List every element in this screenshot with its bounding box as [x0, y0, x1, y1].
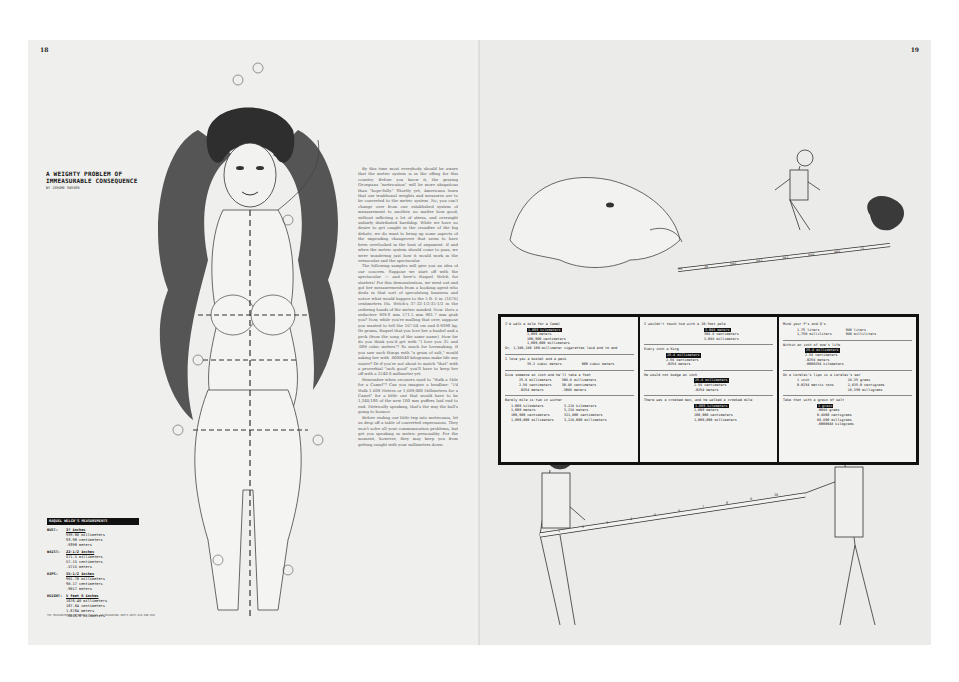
title-line-1: A WEIGHTY PROBLEM OF [46, 170, 138, 177]
table-column-3: Mind your P's and Q's 1.75 liters 1,750 … [779, 317, 916, 462]
conversion-values: 35.2 cubic meters 009 cubic meters [505, 362, 634, 367]
article-title: A WEIGHTY PROBLEM OF IMMEASURABLE CONSEQ… [46, 170, 138, 184]
woman-illustration [138, 60, 358, 630]
conversion-values: 1 grain .0648 grams 6.4800 centigrams 64… [783, 404, 912, 427]
expression: He would not budge an inch [644, 373, 773, 378]
value: 0.0254 metric tons [797, 383, 834, 388]
tape-label: 506 [730, 262, 736, 266]
value: 1,750 milliliters [797, 332, 832, 337]
expression: I love you a bushel and a peck [505, 357, 634, 362]
value-group: 1.75 liters 1,750 milliliters [797, 328, 832, 337]
table-cell: Barely mile is two in winter 1.609 kilom… [505, 396, 634, 425]
measurement-row-waist: WAIST: 22-1/2 inches 571.5 millimeters 5… [47, 550, 139, 570]
value: 160,900 centimeters [511, 413, 554, 418]
tape-label: 302 [782, 256, 788, 260]
conversion-table: I'd walk a mile for a Camel 1.609 kilome… [498, 314, 919, 465]
value: 1,609,000 millimeters [694, 418, 773, 423]
value: .0254 meters [519, 388, 552, 393]
tape-label: 5 [654, 513, 656, 517]
value: 3,048 millimeters [704, 337, 773, 342]
measurement-value: .9017 meters [66, 587, 105, 592]
measurements-heading: RAQUEL WELCH'S MEASUREMENTS [47, 518, 139, 525]
conversion-values: 25.4 millimeters 2.54 centimeters .0254 … [644, 378, 773, 392]
conversion-values: 25.4 millimeters 2.54 centimeters .0254 … [783, 348, 912, 366]
measurement-label: WAIST: [47, 550, 66, 570]
table-column-2: I wouldn't touch him with a 10-foot pole… [640, 317, 779, 462]
expression: There was a crooked man, and he walked a… [644, 398, 773, 403]
page-number-left: 18 [40, 46, 48, 53]
expression: On a Lorelei's lips is a Lorelei's ear [783, 373, 912, 378]
value: .0254 meters [666, 362, 773, 367]
value-group: 28.35 grams 2,835.0 centigrams 28,350 mi… [848, 378, 885, 392]
tape-label: 73 [860, 247, 864, 251]
conversion-values: 3.048 meters 304.8 centimeters 3,048 mil… [644, 328, 773, 342]
value: 2,835.0 centigrams [848, 383, 885, 388]
value: .0254 meters [694, 388, 773, 393]
measurement-value: .5715 meters [66, 565, 103, 570]
value-group: 25.4 millimeters 2.54 centimeters .0254 … [519, 378, 552, 392]
camel-and-walker-illustration [500, 120, 920, 290]
value-group: 3.218 kilometers 3,218 meters 321,800 ce… [564, 404, 607, 422]
value: 946 milliliters [846, 332, 877, 337]
title-line-2: IMMEASURABLE CONSEQUENCE [46, 177, 138, 184]
conversion-values: 1.609 kilometers 1,609 meters 160,900 ce… [505, 404, 634, 422]
body-paragraph: Remember when crooners used to "Walk a M… [358, 377, 458, 415]
article-body: By this time most everybody should be aw… [358, 166, 458, 606]
page-number-right: 19 [911, 46, 919, 53]
value: 321,800 centimeters [564, 413, 607, 418]
expression: Within an inch of one's life [783, 343, 912, 348]
value: 30.48 centimeters [562, 383, 597, 388]
measurement-row-hips: HIPS: 35-1/2 inches 901.70 millimeters 9… [47, 572, 139, 592]
value: 3,218,000 millimeters [564, 418, 607, 423]
measurements-box: RAQUEL WELCH'S MEASUREMENTS BUST: 37 inc… [47, 518, 139, 621]
conversion-values: 25.4 millimeters 2.54 centimeters .0254 … [505, 378, 634, 392]
table-cell: I wouldn't touch him with a 10-foot pole… [644, 320, 773, 345]
tape-label: 10 [774, 493, 778, 497]
expression: Every inch a King [644, 347, 773, 352]
tape-label: 602 [756, 259, 762, 263]
table-cell: Mind your P's and Q's 1.75 liters 1,750 … [783, 320, 912, 341]
tape-label: 39 [678, 267, 682, 271]
table-cell: There was a crooked man, and he walked a… [644, 396, 773, 425]
figure-caption: THE MEASUREMENTS OF RAQUEL WELCH, IN MEA… [47, 614, 247, 617]
conversion-values: 25.4 millimeters 2.54 centimeters .0254 … [644, 353, 773, 367]
conversion-values: 1.75 liters 1,750 milliliters 946 liters… [783, 328, 912, 337]
measurement-label: HIPS: [47, 572, 66, 592]
value: .0000254 kilometers [805, 362, 912, 367]
table-cell: Give someone an inch and he'll take a fo… [505, 371, 634, 396]
table-cell: Every inch a King 25.4 millimeters 2.54 … [644, 345, 773, 370]
table-cell: I love you a bushel and a peck 35.2 cubi… [505, 355, 634, 371]
magazine-spread: 18 A WEIGHTY PROBLEM OF IMMEASURABLE CON… [28, 40, 931, 645]
value-group: 1 inch 0.0254 metric tons [797, 378, 834, 392]
left-page: 18 A WEIGHTY PROBLEM OF IMMEASURABLE CON… [28, 40, 480, 645]
value-group: 304.8 millimeters 30.48 centimeters .304… [562, 378, 597, 392]
table-cell: I'd walk a mile for a Camel 1.609 kilome… [505, 320, 634, 355]
conversion-values: 1.609 kilometers 1,609 meters 160,900 ce… [644, 404, 773, 422]
value-group: 946 liters 946 milliliters [846, 328, 877, 337]
value: .0000648 kilograms [817, 422, 912, 427]
table-cell: He would not budge an inch 25.4 millimet… [644, 371, 773, 396]
value: .3048 meters [562, 388, 597, 393]
byline: BY JEROME SNYDER [46, 186, 80, 190]
tape-label: 38 [704, 265, 708, 269]
tape-label: 8 [726, 501, 728, 505]
measurement-values: 35-1/2 inches 901.70 millimeters 90.17 c… [66, 572, 105, 592]
table-cell: Take that with a grain of salt 1 grain .… [783, 396, 912, 430]
tape-label: 405 [834, 250, 840, 254]
expression: Take that with a grain of salt [783, 398, 912, 403]
note: Or, 1,340,180 100-millimeter cigarettes … [505, 346, 634, 351]
measurement-values: 37 inches 939.80 millimeters 93.98 centi… [66, 528, 105, 548]
expression: Barely mile is two in winter [505, 398, 634, 403]
measurement-row-bust: BUST: 37 inches 939.80 millimeters 93.98… [47, 528, 139, 548]
value: 25.4 millimeters [666, 353, 701, 358]
conversion-values: 1 inch 0.0254 metric tons 28.35 grams 2,… [783, 378, 912, 392]
tape-label: 7 [702, 505, 704, 509]
tape-label: 2 [582, 525, 584, 529]
measurement-label: BUST: [47, 528, 66, 548]
table-column-1: I'd walk a mile for a Camel 1.609 kilome… [501, 317, 640, 462]
tape-label: 9 [750, 497, 752, 501]
table-cell: On a Lorelei's lips is a Lorelei's ear 1… [783, 371, 912, 396]
tape-label: 6 [678, 509, 680, 513]
value: 2.54 centimeters [519, 383, 552, 388]
value: 28,350 milligrams [848, 388, 885, 393]
